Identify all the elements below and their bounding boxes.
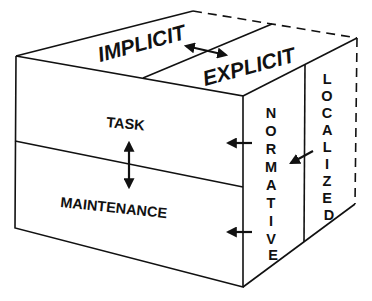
label-explicit: EXPLICIT [200,43,299,90]
label-localized: L O C A L I Z E D [321,71,336,223]
right-face: N O R M A T I V E L O C A L I Z E D [228,71,337,263]
label-maintenance: MAINTENANCE [60,194,169,221]
arrow-diagonal-icon [291,151,313,163]
double-arrow-icon [186,46,226,55]
cube-outline [15,11,357,287]
front-face: TASK MAINTENANCE [60,114,169,221]
cube-diagram: IMPLICIT EXPLICIT TASK MAINTENANCE N O R… [0,0,372,301]
right-divider [304,65,305,242]
label-task: TASK [106,114,146,133]
label-normative: N O R M A T I V E [265,105,281,263]
label-implicit: IMPLICIT [95,20,190,66]
